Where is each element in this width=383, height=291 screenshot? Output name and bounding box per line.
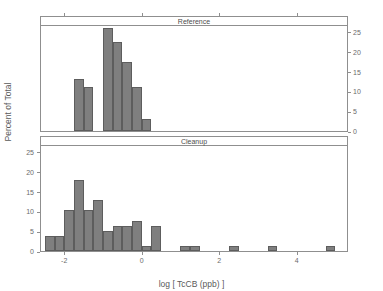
y-tick-label: 15	[353, 69, 361, 76]
histogram-bar	[103, 231, 113, 251]
plot-area-cleanup	[41, 146, 347, 251]
plot-area-reference	[41, 26, 347, 131]
histogram-bar	[142, 119, 152, 131]
axis-tick	[348, 132, 351, 133]
y-tick-label: 0	[353, 128, 357, 135]
y-axis-title: Percent of Total	[3, 57, 13, 167]
y-tick-label: 20	[353, 49, 361, 56]
x-tick-label: 2	[204, 257, 234, 264]
axis-tick	[37, 212, 40, 213]
axis-tick	[348, 112, 351, 113]
y-tick-label: 25	[353, 29, 361, 36]
histogram-bar	[74, 180, 84, 251]
x-tick-label: 4	[282, 257, 312, 264]
histogram-bar	[45, 236, 55, 251]
bar-group-reference	[41, 26, 347, 131]
axis-tick	[37, 232, 40, 233]
axis-tick	[142, 13, 143, 16]
histogram-bar	[326, 246, 336, 251]
axis-tick	[297, 13, 298, 16]
histogram-bar	[55, 236, 65, 251]
y-tick-label: 5	[353, 108, 357, 115]
histogram-bar	[229, 246, 239, 251]
histogram-bar	[142, 246, 152, 251]
x-axis-title: log [ TcCB (ppb) ]	[0, 279, 383, 289]
panel-strip-reference: Reference	[41, 17, 347, 26]
histogram-bar	[64, 210, 74, 251]
y-tick-label: 0	[8, 248, 34, 255]
axis-tick	[219, 252, 220, 255]
bar-group-cleanup	[41, 146, 347, 251]
panel-reference: Reference	[40, 16, 348, 132]
histogram-bar	[74, 79, 84, 131]
axis-tick	[348, 32, 351, 33]
histogram-bar	[122, 226, 132, 251]
axis-tick	[37, 172, 40, 173]
y-tick-label: 20	[8, 169, 34, 176]
x-tick-label: -2	[49, 257, 79, 264]
histogram-bar	[84, 210, 94, 251]
x-tick-label: 0	[127, 257, 157, 264]
axis-tick	[348, 52, 351, 53]
histogram-bar	[132, 87, 142, 131]
axis-tick	[348, 92, 351, 93]
axis-tick	[64, 252, 65, 255]
histogram-bar	[151, 226, 161, 251]
axis-tick	[297, 252, 298, 255]
axis-tick	[142, 252, 143, 255]
histogram-bar	[113, 226, 123, 251]
y-tick-label: 5	[8, 228, 34, 235]
axis-tick	[64, 13, 65, 16]
histogram-figure: Reference 0510152025 Cleanup 0510152025 …	[0, 0, 383, 291]
histogram-bar	[113, 42, 123, 131]
histogram-bar	[180, 246, 190, 251]
axis-tick	[37, 192, 40, 193]
y-tick-label: 10	[353, 88, 361, 95]
histogram-bar	[122, 62, 132, 131]
histogram-bar	[132, 221, 142, 252]
histogram-bar	[84, 87, 94, 131]
y-tick-label: 15	[8, 189, 34, 196]
axis-tick	[37, 152, 40, 153]
panel-cleanup: Cleanup	[40, 136, 348, 252]
histogram-bar	[103, 28, 113, 131]
axis-tick	[348, 72, 351, 73]
axis-tick	[37, 252, 40, 253]
histogram-bar	[190, 246, 200, 251]
y-tick-label: 10	[8, 208, 34, 215]
histogram-bar	[268, 246, 278, 251]
histogram-bar	[93, 200, 103, 251]
panel-strip-cleanup: Cleanup	[41, 137, 347, 146]
axis-tick	[219, 13, 220, 16]
